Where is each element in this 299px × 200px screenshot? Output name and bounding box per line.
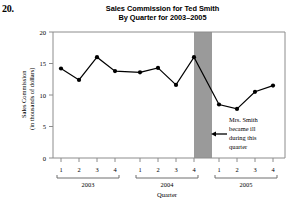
data-point-2003-q4	[113, 69, 117, 73]
x-quarter-label-4: 1	[138, 166, 141, 173]
y-tick-label-10: 10	[39, 92, 46, 99]
annotation-line-1: became ill	[229, 125, 256, 132]
year-label-2004: 2004	[161, 181, 175, 188]
x-quarter-label-9: 2	[235, 166, 238, 173]
year-group-brackets	[57, 175, 277, 178]
y-tick-label-15: 15	[39, 60, 46, 67]
x-quarter-label-10: 3	[253, 166, 256, 173]
x-quarter-label-1: 2	[77, 166, 80, 173]
shaded-quarter-region	[194, 32, 212, 158]
data-point-2004-q2	[156, 66, 160, 70]
y-tick-label-20: 20	[39, 29, 46, 36]
annotation-line-0: Mrs. Smith	[229, 116, 259, 123]
x-quarter-label-8: 1	[217, 166, 220, 173]
data-point-2003-q3	[95, 55, 99, 59]
data-point-2005-q2	[235, 107, 239, 111]
y-tick-label-0: 0	[43, 155, 47, 162]
y-tick-label-5: 5	[43, 123, 47, 130]
line-chart-plot: 20 15 10 5 0 Sales Commission (in thousa…	[0, 0, 299, 200]
x-quarter-label-0: 1	[59, 166, 62, 173]
data-point-2005-q4	[271, 84, 275, 88]
x-axis-title: Quarter	[157, 191, 178, 198]
x-quarter-label-6: 3	[174, 166, 177, 173]
x-quarter-label-2: 3	[95, 166, 98, 173]
data-point-2005-q1	[217, 102, 221, 106]
data-point-2004-q3	[174, 83, 178, 87]
year-bracket-2005	[215, 175, 277, 178]
y-axis-ticks	[49, 32, 53, 158]
x-axis-ticks	[61, 158, 273, 162]
year-label-2005: 2005	[240, 181, 253, 188]
year-label-2003: 2003	[82, 181, 95, 188]
y-axis-title-line2: (in thousands of dollars)	[28, 68, 36, 130]
annotation-line-3: quarter	[229, 143, 248, 150]
x-quarter-label-5: 2	[156, 166, 159, 173]
figure-container: 20. Sales Commission for Ted Smith By Qu…	[0, 0, 299, 200]
data-point-2005-q3	[253, 90, 257, 94]
data-point-2003-q1	[59, 66, 63, 70]
data-point-2003-q2	[77, 78, 81, 82]
data-point-2004-q1	[138, 70, 142, 74]
x-quarter-label-11: 4	[271, 166, 275, 173]
x-quarter-label-3: 4	[113, 166, 117, 173]
y-axis-title-line1: Sales Commission	[20, 70, 27, 118]
data-point-2004-q4	[192, 55, 196, 59]
year-bracket-2003	[57, 175, 119, 178]
x-quarter-label-7: 4	[192, 166, 196, 173]
annotation-line-2: during this	[229, 134, 257, 141]
year-bracket-2004	[136, 175, 198, 178]
